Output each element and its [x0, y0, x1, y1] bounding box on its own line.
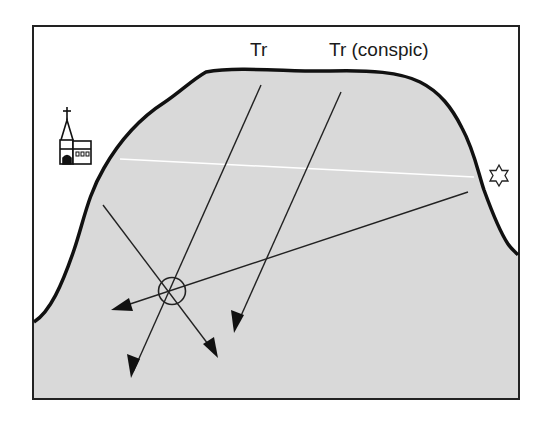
- transit-diagram: Tr Tr (conspic): [0, 0, 548, 424]
- label-tr: Tr: [250, 39, 268, 60]
- label-tr-conspic: Tr (conspic): [329, 39, 429, 60]
